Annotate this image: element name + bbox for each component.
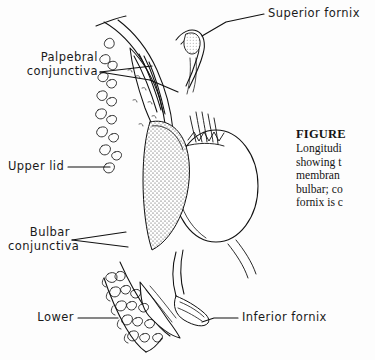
superior-fornix (176, 30, 204, 94)
figure-canvas: Palpebral conjunctiva Upper lid Bulbar c… (0, 0, 375, 360)
label-bulbar-conjunctiva-line2: conjunctiva (8, 239, 79, 253)
figure-caption-line: showing t (296, 156, 375, 170)
label-superior-fornix: Superior fornix (268, 7, 360, 21)
label-palpebral-conjunctiva: Palpebral conjunctiva (8, 51, 98, 78)
figure-caption-line: membran (296, 169, 375, 183)
orbital-tissue (228, 240, 256, 278)
figure-caption: FIGURE Longitudi showing t membran bulba… (296, 127, 375, 210)
label-palpebral-conjunctiva-line1: Palpebral (41, 50, 98, 64)
inferior-fornix (173, 250, 209, 326)
label-bulbar-conjunctiva-line1: Bulbar (30, 225, 70, 239)
label-lower-lid: Lower (8, 311, 74, 325)
lower-eyelid-section (102, 262, 180, 352)
label-superior-fornix-text: Superior fornix (268, 6, 360, 20)
figure-caption-line: fornix is c (296, 196, 375, 210)
label-inferior-fornix-text: Inferior fornix (242, 310, 327, 324)
label-upper-lid: Upper lid (8, 160, 64, 174)
figure-caption-title: FIGURE (296, 127, 375, 142)
label-bulbar-conjunctiva: Bulbar conjunctiva (8, 226, 70, 253)
label-upper-lid-text: Upper lid (8, 159, 64, 173)
figure-caption-line: bulbar; co (296, 183, 375, 197)
ciliary-body-stipple (143, 121, 189, 250)
label-inferior-fornix: Inferior fornix (242, 311, 327, 325)
label-lower-lid-text: Lower (37, 310, 74, 324)
label-palpebral-conjunctiva-line2: conjunctiva (27, 64, 98, 78)
figure-caption-line: Longitudi (296, 142, 375, 156)
